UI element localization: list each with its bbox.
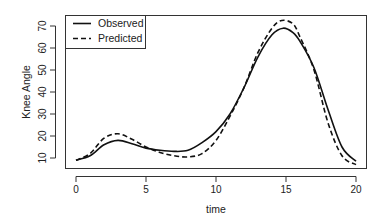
y-tick-label: 40 — [37, 86, 48, 98]
x-tick-label: 10 — [210, 184, 222, 195]
legend-predicted-label: Predicted — [98, 32, 143, 44]
x-tick-label: 15 — [280, 184, 292, 195]
x-tick-label: 5 — [143, 184, 149, 195]
x-axis-title: time — [206, 203, 226, 215]
y-axis-title: Knee Angle — [20, 65, 32, 119]
y-tick-label: 70 — [37, 20, 48, 32]
x-axis: 05101520 — [73, 177, 362, 196]
y-tick-label: 30 — [37, 108, 48, 120]
y-tick-label: 50 — [37, 64, 48, 76]
y-tick-label: 10 — [37, 152, 48, 164]
x-tick-label: 0 — [73, 184, 79, 195]
y-axis: 10203040506070 — [37, 20, 56, 164]
knee-angle-chart: 10203040506070 05101520 Observed Predict… — [0, 0, 387, 223]
y-tick-label: 20 — [37, 130, 48, 142]
y-tick-label: 60 — [37, 42, 48, 54]
legend-observed-label: Observed — [98, 17, 144, 29]
x-tick-label: 20 — [350, 184, 362, 195]
legend: Observed Predicted — [66, 16, 146, 49]
